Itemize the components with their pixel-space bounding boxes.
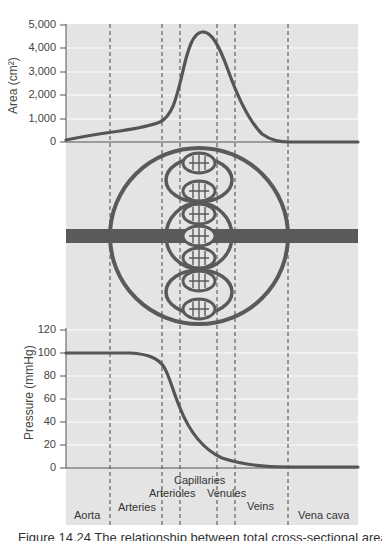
circulation-figure: 5,000 4,000 3,000 2,000 1,000 0 Area (cm…: [0, 0, 382, 541]
region-label-venules: Venules: [207, 487, 246, 499]
pressure-axis-title: Pressure (mmHg): [22, 345, 36, 440]
pressure-tick-0: 0: [6, 461, 56, 473]
region-label-vena-cava: Vena cava: [298, 509, 349, 521]
region-label-arterioles: Arterioles: [149, 487, 195, 499]
area-axis-title: Area (cm²): [6, 57, 20, 114]
pressure-tick-120: 120: [6, 323, 56, 335]
area-tick-5000: 5,000: [6, 18, 56, 30]
figure-graphics: [0, 0, 382, 541]
figure-caption: Figure 14.24 The relationship between to…: [18, 530, 382, 541]
region-label-veins: Veins: [247, 500, 274, 512]
area-tick-0: 0: [6, 135, 56, 147]
region-label-arteries: Arteries: [118, 501, 156, 513]
area-tick-4000: 4,000: [6, 41, 56, 53]
region-label-aorta: Aorta: [74, 509, 100, 521]
region-label-capillaries: Capillaries: [174, 474, 225, 486]
